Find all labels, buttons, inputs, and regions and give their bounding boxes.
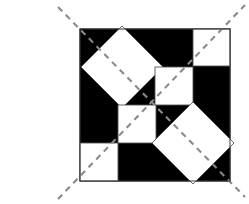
small-square-bottom-left <box>80 143 118 181</box>
figure-panel: (c) <box>0 0 249 204</box>
geometric-figure <box>0 0 249 204</box>
small-square-center-lower <box>118 105 156 143</box>
small-square-top-right <box>193 29 230 66</box>
small-square-center-upper <box>155 67 193 105</box>
